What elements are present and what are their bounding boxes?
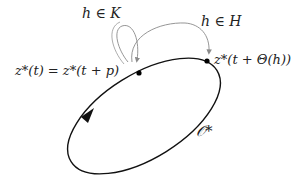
orbit-label: 𝒪*	[196, 124, 213, 139]
point-end-dot	[204, 58, 209, 63]
diagram-canvas	[0, 0, 305, 179]
arrow-h-in-k	[117, 25, 138, 62]
point-start-label: z*(t) = z*(t + p)	[15, 64, 119, 77]
arrow-k-label: h ∈ K	[82, 6, 121, 20]
arrow-h-in-h	[132, 23, 209, 62]
orbit-direction-arrow-icon	[81, 108, 94, 123]
point-end-label: z*(t + Θ(h))	[214, 53, 291, 66]
point-start-dot	[136, 70, 141, 75]
orbit-curve	[49, 35, 239, 179]
arrow-h-label: h ∈ H	[201, 14, 242, 28]
